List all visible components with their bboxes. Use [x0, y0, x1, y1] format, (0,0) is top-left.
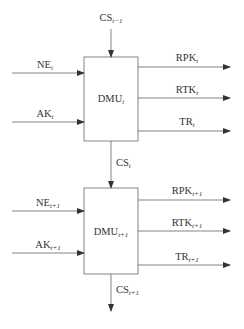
label-cs-t-minus-1: CSt−1 — [99, 12, 122, 27]
label-tr-t1: TRt+1 — [175, 251, 199, 266]
label-dmu-t: DMUt — [98, 93, 124, 108]
label-rtk-t: RTKt — [176, 84, 198, 99]
label-ak-t1: AKt+1 — [35, 239, 60, 254]
label-rpk-t: RPKt — [176, 52, 198, 67]
label-ne-t1: NEt+1 — [36, 197, 60, 212]
label-tr-t: TRt — [179, 116, 194, 131]
label-ne-t: NEt — [37, 59, 53, 74]
label-rtk-t1: RTKt+1 — [172, 217, 203, 232]
label-ak-t: AKt — [36, 108, 53, 123]
label-rpk-t1: RPKt+1 — [172, 185, 203, 200]
label-dmu-t1: DMUt+1 — [94, 226, 129, 241]
label-cs-t1: CSt+1 — [116, 284, 139, 299]
label-cs-t: CSt — [116, 157, 131, 172]
